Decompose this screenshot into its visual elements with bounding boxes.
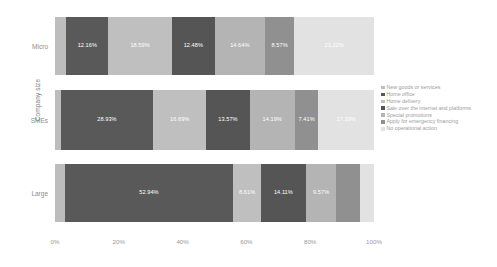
bar-segment: 14.64% <box>215 17 265 75</box>
bar-segment: 12.48% <box>172 17 215 75</box>
segment-value-label: 52.94% <box>139 190 158 196</box>
y-axis-title: Company size <box>34 60 41 140</box>
bar-segment: 14.19% <box>250 90 295 150</box>
legend-item-label: Home delivery <box>386 99 420 104</box>
x-axis-tick-label: 40% <box>176 238 188 245</box>
legend-item-label: Special promotions <box>386 113 431 118</box>
legend-item[interactable]: No operational action <box>381 126 495 131</box>
x-axis-tick-label: 0% <box>51 238 60 245</box>
legend-swatch-icon <box>381 127 385 131</box>
x-axis-tick-label: 100% <box>366 238 382 245</box>
legend-swatch-icon <box>381 86 385 90</box>
bar-segment <box>336 164 360 222</box>
bar-row: Micro12.16%18.59%12.48%14.64%8.57%23.22% <box>55 17 374 75</box>
plot-area: Micro12.16%18.59%12.48%14.64%8.57%23.22%… <box>55 12 374 227</box>
bar-segment: 8.61% <box>233 164 260 222</box>
legend-item[interactable]: Home delivery <box>381 99 495 104</box>
bar-row: Large52.94%8.61%14.11%9.57% <box>55 164 374 222</box>
bar-segment: 16.69% <box>153 90 206 150</box>
legend-swatch-icon <box>381 93 385 97</box>
bar-segment: 52.94% <box>65 164 234 222</box>
category-label-large: Large <box>31 190 48 197</box>
legend-swatch-icon <box>381 120 385 124</box>
legend-item-label: Apply for emergency financing <box>386 119 458 124</box>
segment-value-label: 7.41% <box>299 117 315 123</box>
legend-swatch-icon <box>381 106 385 110</box>
legend-item-label: Sale over the internet and platforms <box>386 106 471 111</box>
bar-segment <box>55 17 66 75</box>
bar-track: 12.16%18.59%12.48%14.64%8.57%23.22% <box>55 17 374 75</box>
category-label-micro: Micro <box>32 43 48 50</box>
segment-value-label: 14.19% <box>263 117 282 123</box>
bar-segment <box>360 164 374 222</box>
bar-segment <box>55 164 65 222</box>
bar-segment: 9.57% <box>306 164 337 222</box>
x-axis: 0%20%40%60%80%100% <box>55 238 374 252</box>
bar-row: SMEs28.93%16.69%13.57%14.19%7.41%17.39% <box>55 90 374 150</box>
bar-track: 28.93%16.69%13.57%14.19%7.41%17.39% <box>55 90 374 150</box>
bar-segment: 12.16% <box>66 17 108 75</box>
x-axis-tick-label: 60% <box>240 238 252 245</box>
legend-item[interactable]: Sale over the internet and platforms <box>381 106 495 111</box>
bar-segment: 7.41% <box>295 90 319 150</box>
legend-swatch-icon <box>381 100 385 104</box>
legend-item[interactable]: Special promotions <box>381 113 495 118</box>
bar-segment: 8.57% <box>265 17 294 75</box>
segment-value-label: 14.64% <box>230 43 249 49</box>
segment-value-label: 28.93% <box>97 117 116 123</box>
segment-value-label: 9.57% <box>313 190 329 196</box>
segment-value-label: 13.57% <box>218 117 237 123</box>
bar-segment: 28.93% <box>61 90 153 150</box>
bar-segment: 13.57% <box>206 90 249 150</box>
segment-value-label: 12.48% <box>184 43 203 49</box>
segment-value-label: 12.16% <box>78 43 97 49</box>
segment-value-label: 8.57% <box>272 43 288 49</box>
legend-item[interactable]: New goods or services <box>381 85 495 90</box>
segment-value-label: 14.11% <box>274 190 293 196</box>
bar-segment: 18.59% <box>108 17 172 75</box>
segment-value-label: 23.22% <box>324 43 343 49</box>
segment-value-label: 17.39% <box>337 117 356 123</box>
legend-item-label: Home office <box>386 92 414 97</box>
segment-value-label: 8.61% <box>239 190 255 196</box>
bar-segment: 14.11% <box>261 164 306 222</box>
legend-item-label: No operational action <box>386 126 436 131</box>
x-axis-tick-label: 80% <box>304 238 316 245</box>
bar-segment: 17.39% <box>318 90 373 150</box>
segment-value-label: 18.59% <box>130 43 149 49</box>
x-axis-tick-label: 20% <box>113 238 125 245</box>
bar-segment: 23.22% <box>294 17 374 75</box>
legend-swatch-icon <box>381 113 385 117</box>
stacked-bar-chart: Company size Micro12.16%18.59%12.48%14.6… <box>0 0 497 267</box>
legend-item-label: New goods or services <box>386 85 440 90</box>
category-label-smes: SMEs <box>31 117 48 124</box>
legend-item[interactable]: Home office <box>381 92 495 97</box>
chart-legend: New goods or servicesHome officeHome del… <box>381 85 495 133</box>
legend-item[interactable]: Apply for emergency financing <box>381 119 495 124</box>
bar-track: 52.94%8.61%14.11%9.57% <box>55 164 374 222</box>
segment-value-label: 16.69% <box>170 117 189 123</box>
